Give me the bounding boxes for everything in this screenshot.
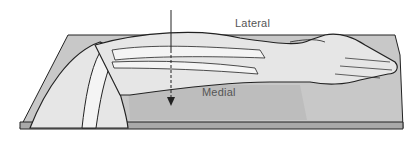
forearm-diagram: Lateral Medial	[0, 0, 418, 143]
medial-label: Medial	[202, 86, 236, 98]
lateral-label: Lateral	[235, 17, 270, 29]
diagram-drawing	[0, 0, 418, 143]
